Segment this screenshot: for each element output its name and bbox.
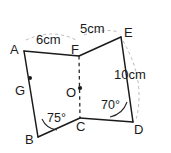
vertex-label-b: B (25, 133, 34, 146)
vertex-label-d: D (134, 123, 143, 136)
edge-ab (24, 51, 38, 137)
vertex-label-e: E (124, 26, 133, 39)
vertex-label-g: G (15, 84, 25, 97)
point-o-dot (78, 86, 82, 90)
point-g-dot (28, 76, 32, 80)
vertex-label-o: O (66, 86, 76, 99)
vertex-label-a: A (10, 43, 19, 56)
angle-label-b: 75° (47, 112, 66, 125)
edge-fe (79, 37, 121, 56)
vertex-label-f: F (71, 43, 79, 56)
measure-label-ed: 10cm (114, 68, 146, 81)
measure-label-fe: 5cm (80, 22, 105, 35)
vertex-label-c: C (76, 120, 85, 133)
edge-cd (80, 118, 133, 122)
angle-label-d: 70° (101, 99, 120, 112)
measure-label-af: 6cm (36, 33, 61, 46)
geometry-figure: A B C D E F G O 6cm 5cm 10cm 75° 70° (0, 0, 171, 153)
